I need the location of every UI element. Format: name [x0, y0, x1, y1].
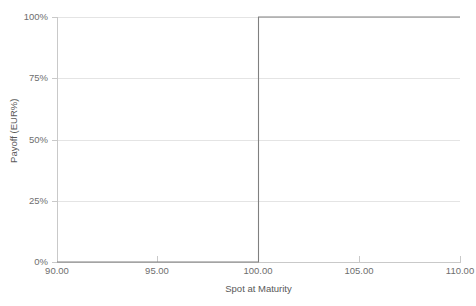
gridline-25 — [57, 201, 460, 202]
digital-option-payoff-chart: 100% 75% 50% 25% 0% 90.00 95.00 100.00 1… — [0, 0, 476, 306]
x-axis-title: Spot at Maturity — [57, 284, 460, 294]
x-axis-line — [57, 262, 461, 263]
x-tick-label-100: 100.00 — [218, 266, 298, 276]
y-tick-mark-50 — [52, 140, 57, 141]
y-axis-title: Payoff (EUR%) — [9, 71, 19, 191]
y-axis-line — [57, 17, 58, 263]
x-tick-mark-100 — [258, 256, 259, 262]
x-tick-label-90: 90.00 — [17, 266, 97, 276]
x-tick-label-105: 105.00 — [319, 266, 399, 276]
y-tick-mark-75 — [52, 78, 57, 79]
x-tick-mark-95 — [157, 256, 158, 262]
y-tick-label-50: 50% — [29, 135, 48, 145]
y-tick-label-25: 25% — [29, 196, 48, 206]
plot-area — [57, 17, 460, 262]
y-tick-mark-0 — [52, 262, 57, 263]
y-tick-mark-100 — [52, 17, 57, 18]
x-tick-mark-105 — [359, 256, 360, 262]
y-tick-label-75: 75% — [29, 73, 48, 83]
x-tick-mark-110 — [460, 256, 461, 262]
y-tick-mark-25 — [52, 201, 57, 202]
x-tick-label-110: 110.00 — [420, 266, 476, 276]
gridline-75 — [57, 78, 460, 79]
gridline-50 — [57, 140, 460, 141]
gridline-100 — [57, 17, 460, 18]
bottom-cropped-text-artifact — [0, 302, 476, 306]
y-tick-label-100: 100% — [24, 12, 48, 22]
x-tick-label-95: 95.00 — [117, 266, 197, 276]
x-tick-mark-90 — [57, 256, 58, 262]
